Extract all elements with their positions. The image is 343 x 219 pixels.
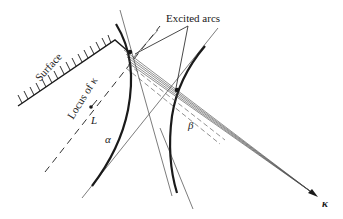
surface-boundary — [18, 35, 130, 106]
kappa-arrowhead — [308, 189, 318, 197]
point-L — [89, 100, 97, 109]
kappa-ray-bundle — [124, 50, 314, 194]
excited-arcs-diagram: Surface Locus of κ L α β κ Excited arcs — [0, 0, 343, 219]
kappa-label: κ — [322, 197, 329, 209]
point-L-label: L — [90, 114, 97, 126]
arc-beta-label: β — [187, 119, 194, 131]
excited-arcs-label: Excited arcs — [166, 12, 220, 24]
tangent-lines — [82, 10, 218, 209]
arc-alpha-label: α — [105, 133, 111, 145]
